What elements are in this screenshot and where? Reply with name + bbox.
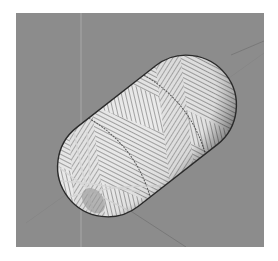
capsule-body bbox=[37, 35, 256, 237]
render-viewport bbox=[16, 13, 264, 247]
axis-line-top bbox=[231, 41, 264, 55]
capsule-render bbox=[16, 13, 264, 247]
axis-line-bottom bbox=[126, 208, 186, 247]
